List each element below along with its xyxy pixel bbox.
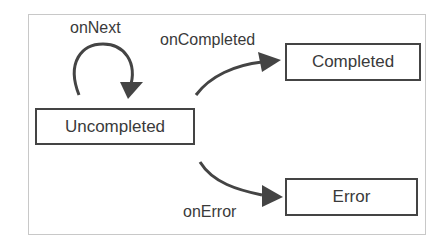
state-uncompleted-label: Uncompleted <box>65 117 165 137</box>
state-completed-label: Completed <box>312 52 394 72</box>
state-error-label: Error <box>333 187 371 207</box>
transition-label-onerror: onError <box>183 203 236 221</box>
transition-label-oncompleted: onCompleted <box>160 31 255 49</box>
transition-label-onnext: onNext <box>70 19 121 37</box>
state-error: Error <box>285 178 418 216</box>
oncompleted-arrowhead-icon <box>258 52 281 72</box>
state-uncompleted: Uncompleted <box>35 108 195 145</box>
onerror-arrowhead-icon <box>262 185 283 207</box>
state-completed: Completed <box>285 43 421 81</box>
oncompleted-arrow <box>196 62 262 95</box>
onerror-arrow <box>200 162 262 195</box>
onnext-arrowhead-icon <box>120 82 143 99</box>
